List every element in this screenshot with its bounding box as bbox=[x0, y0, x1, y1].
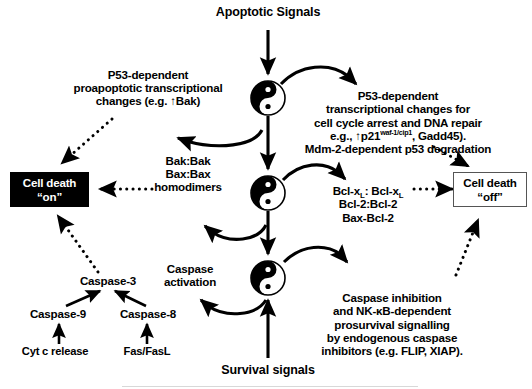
p53-trans-line-5: Mdm-2-dependent p53 degradation bbox=[305, 142, 491, 155]
curve-yy2-to-homodimers bbox=[205, 225, 266, 239]
cell-death-on-line-1: Cell death bbox=[23, 176, 76, 190]
bcl-xl-subscript-b: L bbox=[399, 192, 404, 201]
bcl-xl-a: Bcl-x bbox=[333, 184, 360, 197]
p53-trans-line-4: e.g., ↑p21waf-1/cip1, Gadd45). bbox=[330, 129, 466, 142]
cell-death-off-line-2: “off” bbox=[477, 190, 502, 204]
arrow-caspase8-to-caspase3 bbox=[115, 291, 146, 306]
label-fas-fasl: Fas/FasL bbox=[124, 345, 171, 358]
yin-yang-icon-middle bbox=[251, 176, 285, 210]
bcl-line-3: Bax-Bcl-2 bbox=[342, 211, 394, 224]
bcl-line-1: Bcl-xL: Bcl-xL bbox=[333, 184, 404, 197]
p53-trans-line-4-pre: e.g., ↑p21 bbox=[330, 129, 380, 142]
label-p53-transcriptional: P53-dependent transcriptional changes fo… bbox=[264, 76, 532, 155]
yin-yang-icon-bottom bbox=[251, 261, 285, 295]
label-caspase-8: Caspase-8 bbox=[120, 307, 176, 320]
page-title-apoptotic-signals: Apoptotic Signals bbox=[216, 5, 321, 19]
label-caspase-9: Caspase-9 bbox=[30, 307, 86, 320]
label-p53-proapoptotic: P53-dependent proapoptotic transcription… bbox=[43, 68, 253, 108]
label-caspase-inhibition: Caspase inhibition and NK-κB-dependent p… bbox=[286, 278, 498, 357]
caspase-inhib-line-1: Caspase inhibition bbox=[342, 291, 441, 304]
dotted-p53proapoptotic-to-celldeath-on bbox=[62, 119, 112, 163]
arrow-caspase9-to-caspase3 bbox=[66, 291, 100, 306]
label-bcl-complexes: Bcl-xL: Bcl-xL Bcl-2:Bcl-2 Bax-Bcl-2 bbox=[303, 171, 433, 224]
p53-trans-line-1: P53-dependent bbox=[358, 89, 439, 102]
caspase-inhib-line-2: and NK-κB-dependent bbox=[333, 304, 451, 317]
page-title-survival-signals: Survival signals bbox=[221, 363, 315, 377]
dotted-caspaseinhibition-to-celldeath-off bbox=[456, 220, 478, 275]
caspase-inhib-line-4: by endogenous caspase bbox=[327, 331, 457, 344]
cell-death-on-line-2: “on” bbox=[37, 190, 62, 204]
caspase-inhib-line-3: prosurvival signalling bbox=[334, 318, 449, 331]
dotted-caspase3-to-celldeath-on bbox=[58, 216, 98, 272]
curve-yy3-to-caspase-activation bbox=[201, 300, 266, 314]
curve-yy3-to-caspase-inhibition bbox=[284, 247, 347, 262]
p53-trans-line-3: cell cycle arrest and DNA repair bbox=[314, 116, 482, 129]
curve-yy1-to-p53-proapoptotic bbox=[178, 130, 262, 146]
caspase-inhib-line-5: inhibitors (e.g. FLIP, XIAP). bbox=[321, 344, 463, 357]
p53-trans-line-2: transcriptional changes for bbox=[326, 102, 470, 115]
label-cyt-c-release: Cyt c release bbox=[22, 345, 88, 358]
footer-divider bbox=[122, 386, 418, 387]
cell-death-off-line-1: Cell death bbox=[463, 176, 516, 190]
status-badge-cell-death-off: Cell death “off” bbox=[453, 172, 527, 207]
label-homodimers: Bak:Bak Bax:Bax homodimers bbox=[128, 154, 248, 194]
label-caspase-3: Caspase-3 bbox=[80, 274, 136, 287]
p21-superscript: waf-1/cip1 bbox=[380, 128, 412, 137]
bcl-line-2: Bcl-2:Bcl-2 bbox=[339, 197, 397, 210]
status-badge-cell-death-on: Cell death “on” bbox=[10, 172, 89, 207]
label-caspase-activation: Caspase activation bbox=[140, 262, 240, 288]
bcl-xl-mid: : Bcl-x bbox=[365, 184, 399, 197]
p53-trans-line-4-post: , Gadd45). bbox=[412, 129, 466, 142]
apoptosis-pathway-diagram: Apoptotic Signals Survival signals P53-d… bbox=[0, 0, 532, 389]
